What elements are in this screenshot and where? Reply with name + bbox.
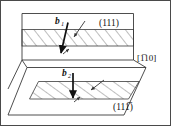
figure-canvas: (111) (111̅) [1̅10] b 1 b 2 (0, 0, 171, 126)
lower-stacking-fault-band (30, 82, 140, 100)
direction-label-group: [1̅10] (137, 53, 156, 63)
b2-subscript: 2 (68, 72, 71, 79)
b1-symbol: b (55, 16, 60, 26)
b2-symbol: b (62, 68, 67, 78)
lower-plane-label-group: (111̅) (113, 102, 133, 113)
crystallography-figure: (111) (111̅) [1̅10] b 1 b 2 (0, 0, 171, 126)
lower-plane-label: (111̅) (113, 102, 133, 113)
upper-plane-label: (111) (99, 18, 119, 29)
direction-label: [1̅10] (137, 53, 156, 63)
b1-subscript: 1 (61, 20, 64, 27)
